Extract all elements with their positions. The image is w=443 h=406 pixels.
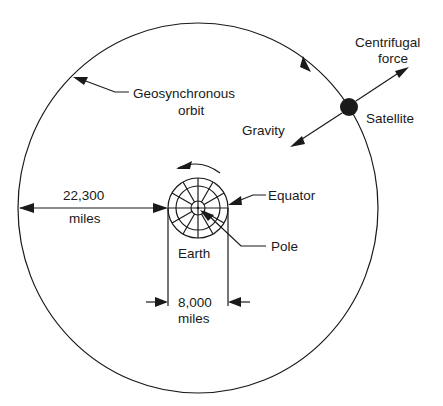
distance-arrowhead-left <box>19 203 34 213</box>
earth-label: Earth <box>178 246 210 261</box>
gravity-label: Gravity <box>242 123 285 138</box>
diameter-value-label: 8,000 <box>178 295 212 310</box>
equator-leader-line <box>238 195 266 201</box>
satellite-label: Satellite <box>366 111 414 126</box>
orbit-label-line1: Geosynchronous <box>133 86 235 101</box>
centrifugal-force-arrow-line <box>356 72 400 101</box>
orbit-label-line2: orbit <box>178 103 205 118</box>
distance-arrowhead-right <box>153 203 168 213</box>
gravity-arrowhead <box>290 136 305 147</box>
distance-unit-label: miles <box>69 211 101 226</box>
equator-leader-arrowhead <box>228 196 242 205</box>
orbit-direction-arrowhead <box>300 56 311 72</box>
gravity-arrow-line <box>299 113 342 141</box>
equator-label: Equator <box>268 188 316 203</box>
centrifugal-label-line1: Centrifugal <box>355 35 420 50</box>
orbit-leader-line <box>83 80 129 92</box>
distance-value-label: 22,300 <box>63 188 104 203</box>
pole-label: Pole <box>271 239 298 254</box>
diameter-arrowhead-right <box>228 297 241 307</box>
centrifugal-label-line2: force <box>378 51 408 66</box>
orbit-leader-arrowhead <box>73 77 88 85</box>
earth-rotation-arrowhead <box>176 161 192 169</box>
diameter-unit-label: miles <box>178 311 210 326</box>
diameter-arrowhead-left <box>155 297 168 307</box>
centrifugal-force-arrowhead <box>395 67 409 78</box>
earth <box>168 178 228 238</box>
satellite-dot <box>340 98 358 116</box>
geosynchronous-orbit-diagram: Geosynchronous orbit Satellite Centrifug… <box>0 0 443 406</box>
